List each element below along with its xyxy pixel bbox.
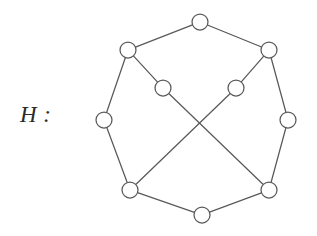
graph-nodes-layer [96, 14, 296, 223]
graph-edge [133, 56, 157, 82]
graph-edge [138, 193, 195, 213]
graph-edge [271, 58, 286, 113]
graph-vertex-bottom [194, 207, 210, 223]
graph-edge [135, 25, 192, 47]
graph-edge [107, 128, 127, 183]
graph-vertex-left [96, 112, 112, 128]
graph-vertex-inner-right [228, 80, 244, 96]
graph-vertex-top [192, 14, 208, 30]
graph-edge [241, 56, 264, 82]
graph-vertex-bottom-right [261, 182, 277, 198]
graph-vertex-inner-left [155, 80, 171, 96]
graph-vertex-upper-right [261, 42, 277, 58]
graph-figure: H : [0, 0, 317, 236]
graph-edge [271, 128, 286, 183]
graph-edge [207, 25, 261, 47]
graph-vertex-right [280, 112, 296, 128]
graph-drawing [0, 0, 317, 236]
graph-edge [107, 58, 126, 113]
graph-vertex-upper-left [120, 42, 136, 58]
graph-edge [210, 193, 262, 212]
graph-vertex-bottom-left [122, 182, 138, 198]
